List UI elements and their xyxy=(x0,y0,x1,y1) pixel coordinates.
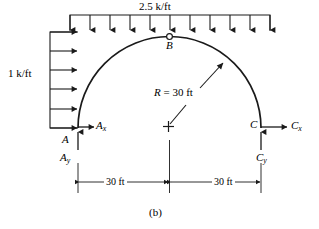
reaction-ax-symbol: A xyxy=(96,119,103,131)
reaction-label-cx: Cx xyxy=(291,120,302,133)
left-load-arrows xyxy=(50,32,77,128)
left-load-label: 1 k/ft xyxy=(8,68,32,79)
dimension-label-right: 30 ft xyxy=(212,177,235,187)
left-distributed-load xyxy=(50,32,78,128)
top-load-arrows xyxy=(70,15,270,30)
node-label-c: C xyxy=(250,119,257,130)
reaction-label-cy: Cy xyxy=(256,152,267,165)
top-load-label: 2.5 k/ft xyxy=(139,1,171,12)
reaction-label-ay: Ay xyxy=(60,152,70,165)
reaction-ay-symbol: A xyxy=(60,151,67,163)
arch-figure: 2.5 k/ft 1 k/ft B A C Ax Cx Ay Cy R = 30… xyxy=(0,0,319,229)
reaction-label-ax: Ax xyxy=(96,120,106,133)
radius-label: R = 30 ft xyxy=(154,87,193,98)
node-label-a: A xyxy=(62,134,69,145)
node-label-b: B xyxy=(166,40,173,51)
top-distributed-load xyxy=(70,15,270,31)
radius-value: = 30 ft xyxy=(163,86,192,98)
radius-symbol: R xyxy=(154,86,161,98)
reaction-ax-subscript: x xyxy=(103,124,107,133)
reaction-cy-subscript: y xyxy=(263,156,267,165)
reaction-cx-subscript: x xyxy=(298,124,302,133)
center-cross-icon xyxy=(163,121,174,132)
reaction-ay-subscript: y xyxy=(67,156,71,165)
dimension-label-left: 30 ft xyxy=(104,177,127,187)
figure-caption: (b) xyxy=(149,207,162,218)
figure-drawing xyxy=(0,0,319,229)
